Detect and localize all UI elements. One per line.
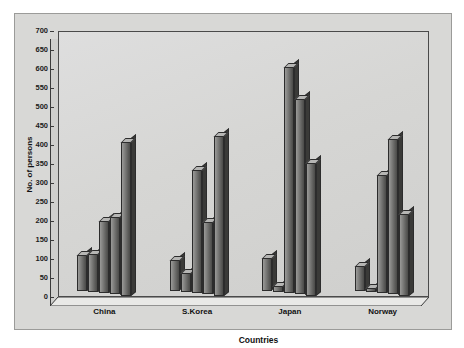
y-axis-tick-label: 150 — [22, 236, 48, 244]
y-axis-tick-label: 350 — [22, 160, 48, 168]
y-axis-tick-label: 650 — [22, 46, 48, 54]
chart-figure: No. of persons Countries 050100150200250… — [0, 0, 464, 348]
bar — [170, 260, 180, 290]
bar-front-face — [181, 273, 191, 292]
bar — [181, 273, 191, 292]
y-axis-tick-label: 200 — [22, 217, 48, 225]
plot-floor — [50, 297, 429, 306]
bar-front-face — [192, 170, 202, 294]
y-axis-tick-label: 50 — [22, 274, 48, 282]
y-axis-tick-label: 300 — [22, 179, 48, 187]
y-axis-tick-label: 550 — [22, 84, 48, 92]
bar — [388, 139, 398, 295]
bar-front-face — [214, 136, 224, 296]
bar-side-face — [409, 206, 414, 296]
bar — [399, 214, 409, 296]
bar-front-face — [355, 266, 365, 291]
bar — [295, 99, 305, 295]
bar — [214, 136, 224, 296]
bar-front-face — [377, 175, 387, 293]
bar-front-face — [110, 217, 120, 295]
x-axis-category-label: S.Korea — [151, 307, 244, 316]
y-axis-tick-mark — [50, 31, 54, 32]
bar-side-face — [224, 128, 229, 296]
x-axis-category-label: Japan — [244, 307, 337, 316]
bar-front-face — [284, 67, 294, 293]
bar — [377, 175, 387, 293]
bar — [273, 286, 283, 292]
plot-depth-wall — [50, 39, 58, 305]
y-axis-tick-label: 450 — [22, 122, 48, 130]
bar-front-face — [262, 258, 272, 290]
bar — [203, 222, 213, 294]
x-axis-title: Countries — [73, 335, 444, 345]
bar-front-face — [399, 214, 409, 296]
bar-side-face — [131, 134, 136, 296]
y-axis-tick-label: 600 — [22, 65, 48, 73]
bar-front-face — [88, 254, 98, 292]
bar-front-face — [306, 163, 316, 296]
bar-front-face — [99, 221, 109, 293]
bar-front-face — [273, 286, 283, 292]
bar-front-face — [77, 255, 87, 291]
bar — [88, 254, 98, 292]
bar — [366, 288, 376, 292]
bar-front-face — [295, 99, 305, 295]
y-axis-tick-label: 250 — [22, 198, 48, 206]
y-axis-tick-label: 500 — [22, 103, 48, 111]
bar — [284, 67, 294, 293]
bar-front-face — [121, 142, 131, 296]
bar — [121, 142, 131, 296]
bar-front-face — [203, 222, 213, 294]
bar-front-face — [388, 139, 398, 295]
y-axis-tick-label: 100 — [22, 255, 48, 263]
bar — [99, 221, 109, 293]
bar — [262, 258, 272, 290]
bar — [355, 266, 365, 291]
x-axis-category-label: Norway — [336, 307, 429, 316]
bar — [306, 163, 316, 296]
y-axis-tick-label: 700 — [22, 27, 48, 35]
y-axis-tick-label: 0 — [22, 293, 48, 301]
x-axis-category-label: China — [58, 307, 151, 316]
y-axis-tick-label: 400 — [22, 141, 48, 149]
y-axis-line — [50, 39, 51, 306]
bar-front-face — [170, 260, 180, 290]
bar — [77, 255, 87, 291]
bar-side-face — [316, 155, 321, 296]
bar — [192, 170, 202, 294]
bar — [110, 217, 120, 295]
